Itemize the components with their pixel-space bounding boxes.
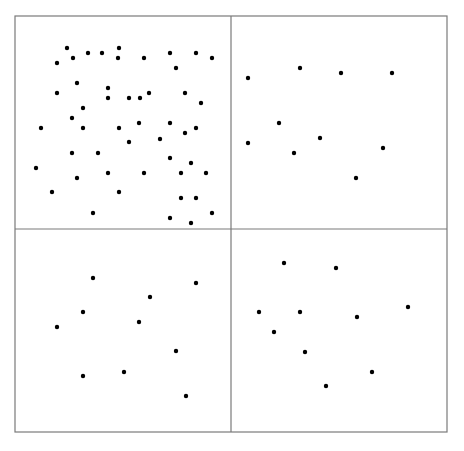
dot (158, 137, 162, 141)
dot (174, 349, 178, 353)
dot (168, 121, 172, 125)
dot (137, 320, 141, 324)
dot (71, 56, 75, 60)
dot (272, 330, 276, 334)
dot (183, 131, 187, 135)
dot (81, 106, 85, 110)
dot (194, 281, 198, 285)
dot (194, 51, 198, 55)
dot (55, 61, 59, 65)
dot (210, 211, 214, 215)
dot (117, 190, 121, 194)
dot (298, 310, 302, 314)
dot (189, 221, 193, 225)
dot (339, 71, 343, 75)
dot (246, 76, 250, 80)
dot (81, 374, 85, 378)
dot (91, 211, 95, 215)
dot (91, 276, 95, 280)
dot (194, 126, 198, 130)
dot (355, 315, 359, 319)
dot (75, 81, 79, 85)
dot (210, 56, 214, 60)
dot (282, 261, 286, 265)
dot (334, 266, 338, 270)
dot (39, 126, 43, 130)
dot (257, 310, 261, 314)
dot (117, 126, 121, 130)
dot (298, 66, 302, 70)
dot (100, 51, 104, 55)
dot (318, 136, 322, 140)
dot (148, 295, 152, 299)
dot (406, 305, 410, 309)
dot (127, 96, 131, 100)
dot (370, 370, 374, 374)
dot (55, 91, 59, 95)
dot (292, 151, 296, 155)
dot (106, 86, 110, 90)
dot (142, 56, 146, 60)
dot (96, 151, 100, 155)
dot (189, 161, 193, 165)
dot (116, 56, 120, 60)
dot (168, 156, 172, 160)
dot (70, 151, 74, 155)
dot (122, 370, 126, 374)
dot (303, 350, 307, 354)
dot (246, 141, 250, 145)
dot (117, 46, 121, 50)
dot (127, 140, 131, 144)
dot (168, 216, 172, 220)
quadrant-bottom-right (257, 261, 410, 388)
dot (50, 190, 54, 194)
dot (184, 394, 188, 398)
dot (81, 310, 85, 314)
dot (277, 121, 281, 125)
diagram-canvas (0, 0, 464, 451)
quadrant-top-left (34, 46, 214, 225)
dot (138, 96, 142, 100)
dot (204, 171, 208, 175)
dot (142, 171, 146, 175)
dot (55, 325, 59, 329)
dot (137, 121, 141, 125)
dot (81, 126, 85, 130)
dot (147, 91, 151, 95)
dot (34, 166, 38, 170)
dot (390, 71, 394, 75)
dot (174, 66, 178, 70)
dot (324, 384, 328, 388)
dot (179, 196, 183, 200)
dot (106, 96, 110, 100)
dot (179, 171, 183, 175)
dot (168, 51, 172, 55)
dot (65, 46, 69, 50)
quadrant-diagram (0, 0, 464, 451)
dot (106, 171, 110, 175)
dot (199, 101, 203, 105)
dot (75, 176, 79, 180)
dot (354, 176, 358, 180)
dot (70, 116, 74, 120)
dot (86, 51, 90, 55)
dot (194, 196, 198, 200)
quadrant-bottom-left (55, 276, 198, 398)
dot (183, 91, 187, 95)
dot (381, 146, 385, 150)
quadrant-top-right (246, 66, 394, 180)
